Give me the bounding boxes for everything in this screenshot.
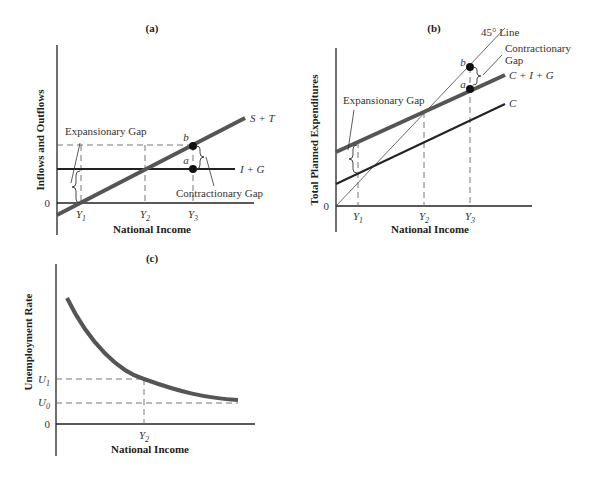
panel-b-contractionary-label-1: Contractionary <box>505 42 571 54</box>
svg-text:Y2: Y2 <box>140 208 150 223</box>
svg-text:U0: U0 <box>38 396 50 411</box>
svg-text:Y1: Y1 <box>353 210 363 225</box>
panel-b-cig-label: C + I + G <box>509 69 554 81</box>
panel-a-contractionary-leader <box>206 157 214 186</box>
panel-a-i-g-label: I + G <box>239 163 265 175</box>
panel-c-guides <box>56 379 238 424</box>
panel-c-title: (c) <box>146 252 159 265</box>
panel-b-c-label: C <box>509 97 517 109</box>
panel-b: (b) 0 Total Planned Expenditures Nationa… <box>308 22 571 235</box>
panel-b-x-label: National Income <box>391 223 469 235</box>
panel-b-y-label: Total Planned Expenditures <box>308 74 320 206</box>
panel-b-title: (b) <box>427 22 441 35</box>
panel-b-point-a-label: a <box>460 78 466 90</box>
panel-b-point-b-label: b <box>460 56 466 68</box>
panel-b-contractionary-leader <box>483 55 502 75</box>
panel-a-s-t-label: S + T <box>250 112 275 124</box>
panel-b-cig-line <box>336 75 505 152</box>
panel-a-point-a <box>189 165 197 173</box>
panel-a: (a) 0 Inflows and Outflows National Inco… <box>34 22 275 235</box>
panel-b-c-line <box>336 104 505 184</box>
svg-text:Y1: Y1 <box>76 208 86 223</box>
panel-b-contractionary-label-2: Gap <box>505 54 524 66</box>
panel-b-origin: 0 <box>324 200 330 212</box>
panel-a-y-label: Inflows and Outflows <box>34 89 46 191</box>
panel-b-expansionary-label: Expansionary Gap <box>343 94 425 106</box>
panel-c: (c) 0 Unemployment Rate National Income … <box>22 252 255 456</box>
panel-a-point-a-label: a <box>183 154 189 166</box>
panel-a-x-label: National Income <box>113 223 191 235</box>
panel-b-expansionary-brace <box>349 145 357 173</box>
panel-a-expansionary-leader <box>71 143 80 183</box>
panel-a-origin: 0 <box>45 197 51 209</box>
panel-a-point-b-label: b <box>183 131 189 143</box>
svg-text:Y2: Y2 <box>139 429 149 444</box>
panel-b-point-b <box>466 63 474 71</box>
panel-a-expansionary-brace <box>72 171 80 203</box>
panel-b-contractionary-brace <box>473 67 481 85</box>
panel-a-point-b <box>189 142 197 150</box>
svg-text:U1: U1 <box>38 373 50 388</box>
figure: (a) 0 Inflows and Outflows National Inco… <box>0 0 597 480</box>
panel-c-unemployment-curve <box>67 298 238 400</box>
panel-a-contractionary-brace <box>196 146 204 169</box>
panel-b-point-a <box>466 85 474 93</box>
panel-c-x-label: National Income <box>111 443 189 455</box>
panel-c-origin: 0 <box>45 418 51 430</box>
panel-b-45-label: 45° Line <box>481 26 519 38</box>
panel-a-expansionary-label: Expansionary Gap <box>65 125 147 137</box>
panel-a-contractionary-label: Contractionary Gap <box>176 187 264 199</box>
panel-a-title: (a) <box>146 22 159 35</box>
panel-c-y-label: Unemployment Rate <box>22 293 34 390</box>
svg-text:Y3: Y3 <box>188 208 198 223</box>
